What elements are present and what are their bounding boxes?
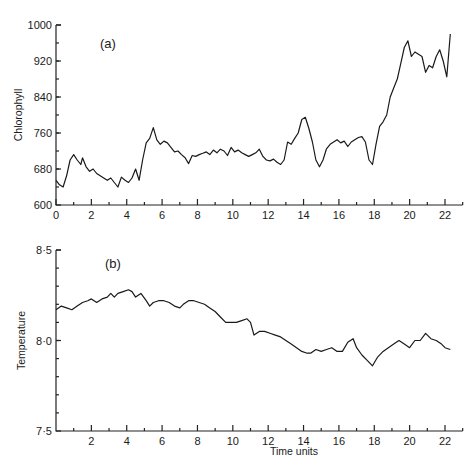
y-tick-label: 7·5 [36,425,52,437]
x-tick-label: 20 [404,209,416,221]
figure: 02468101214161820226006807608409201000Ch… [0,0,474,471]
x-tick-label: 16 [333,435,345,447]
x-tick-label: 10 [227,209,239,221]
x-tick-label: 2 [88,209,94,221]
x-tick-label: 2 [88,435,94,447]
y-tick-label: 760 [34,127,52,139]
x-tick-label: 4 [124,209,130,221]
y-tick-label: 8·5 [36,244,52,256]
x-tick-label: 20 [404,435,416,447]
y-axis-title: Temperature [15,311,27,370]
panel-label: (b) [105,256,121,271]
x-axis-title: Time units [270,445,318,457]
x-tick-label: 16 [333,209,345,221]
x-tick-label: 8 [194,435,200,447]
x-tick-label: 22 [439,209,451,221]
x-tick-label: 4 [124,435,130,447]
x-tick-label: 22 [439,435,451,447]
data-line-temperature [56,290,450,366]
y-tick-label: 920 [34,55,52,67]
x-tick-label: 6 [159,435,165,447]
y-tick-label: 680 [34,163,52,175]
y-axis-title: Chlorophyll [12,89,24,142]
axis-lines [56,25,463,205]
x-tick-label: 18 [368,209,380,221]
x-tick-label: 12 [262,209,274,221]
x-tick-label: 8 [194,209,200,221]
y-tick-label: 600 [34,199,52,211]
x-tick-label: 6 [159,209,165,221]
x-tick-label: 0 [53,209,59,221]
y-tick-label: 8·0 [36,335,52,347]
axis-lines [56,250,463,431]
chart-panel-b: 2468101214161820227·58·08·5TemperatureTi… [15,244,463,457]
x-tick-label: 10 [227,435,239,447]
x-tick-label: 18 [368,435,380,447]
y-tick-label: 1000 [28,19,52,31]
data-line-chlorophyll [56,34,450,187]
x-tick-label: 14 [297,209,309,221]
chart-panel-a: 02468101214161820226006807608409201000Ch… [12,19,463,221]
y-tick-label: 840 [34,91,52,103]
panel-label: (a) [100,36,116,51]
